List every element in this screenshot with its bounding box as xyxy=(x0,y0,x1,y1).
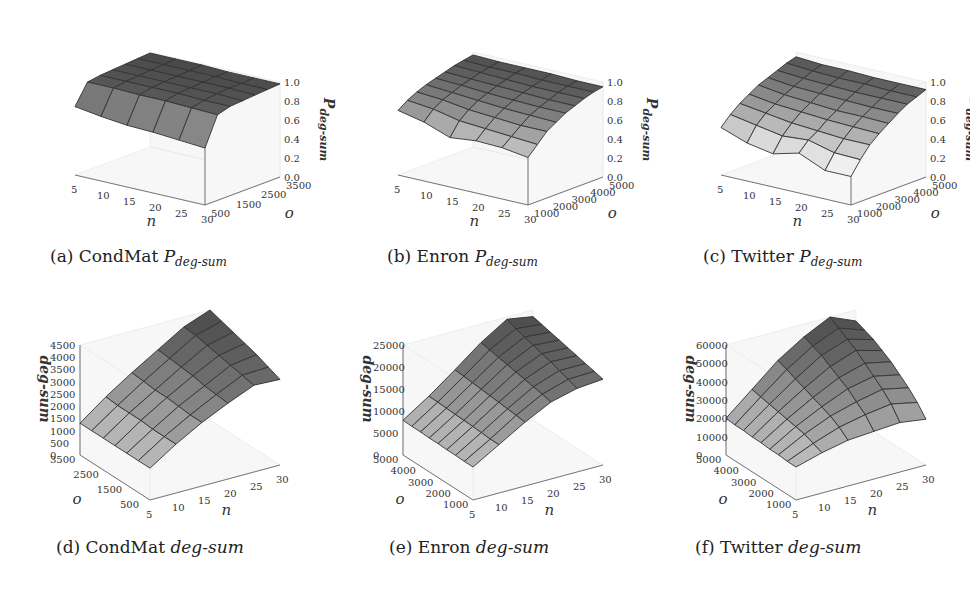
svg-text:20: 20 xyxy=(547,488,560,499)
z-axis-label: deg-sum xyxy=(683,355,699,422)
caption-c-var: P xyxy=(799,246,810,266)
svg-text:5: 5 xyxy=(394,184,400,195)
x-axis-label: n xyxy=(222,501,232,519)
surface-plot-d: 5101520253050015002500350005001000150020… xyxy=(0,320,323,530)
svg-text:20000: 20000 xyxy=(373,362,405,373)
caption-b-var: P xyxy=(475,246,486,266)
svg-text:0.6: 0.6 xyxy=(607,115,623,126)
svg-text:60000: 60000 xyxy=(696,340,728,351)
svg-text:0.0: 0.0 xyxy=(284,172,300,183)
caption-d-var: deg-sum xyxy=(170,537,243,557)
panel-a: 510152025305001500250035000.00.20.40.60.… xyxy=(0,0,323,230)
svg-text:1000: 1000 xyxy=(766,499,791,510)
svg-text:5: 5 xyxy=(146,509,152,520)
x-axis-label: n xyxy=(868,501,878,519)
svg-text:25000: 25000 xyxy=(373,340,405,351)
caption-b-sub: deg-sum xyxy=(486,255,538,269)
y-axis-label: o xyxy=(285,204,294,222)
panel-e: 5101520253010002000300040005000050001000… xyxy=(323,320,646,530)
svg-text:3000: 3000 xyxy=(731,477,756,488)
svg-text:5: 5 xyxy=(792,509,798,520)
svg-text:25: 25 xyxy=(573,481,586,492)
surface-plot-b: 51015202530100020003000400050000.00.20.4… xyxy=(323,0,646,230)
svg-text:1500: 1500 xyxy=(236,199,261,210)
svg-text:0.2: 0.2 xyxy=(607,153,623,164)
svg-text:0.0: 0.0 xyxy=(607,172,623,183)
svg-text:2000: 2000 xyxy=(426,488,451,499)
svg-text:0.2: 0.2 xyxy=(284,153,300,164)
x-axis-label: n xyxy=(470,212,480,230)
caption-b: (b) Enron Pdeg-sum xyxy=(387,246,538,269)
svg-text:10000: 10000 xyxy=(373,406,405,417)
svg-text:10: 10 xyxy=(743,190,756,201)
surface-plot-f: 5101520253010002000300040005000010000200… xyxy=(646,320,969,530)
svg-text:4000: 4000 xyxy=(714,465,739,476)
y-axis-label: o xyxy=(719,490,728,508)
svg-text:0.4: 0.4 xyxy=(284,134,300,145)
caption-a-label: (a) CondMat xyxy=(50,246,164,266)
svg-text:10: 10 xyxy=(818,502,831,513)
surface-plot-e: 5101520253010002000300040005000050001000… xyxy=(323,320,646,530)
caption-f-var: deg-sum xyxy=(788,537,861,557)
svg-text:2500: 2500 xyxy=(261,189,286,200)
svg-text:1.0: 1.0 xyxy=(284,77,300,88)
caption-e-var: deg-sum xyxy=(476,537,549,557)
svg-text:50000: 50000 xyxy=(696,358,728,369)
svg-text:15: 15 xyxy=(844,495,857,506)
caption-c-sub: deg-sum xyxy=(811,255,863,269)
z-axis-label: deg-sum xyxy=(37,355,53,422)
caption-b-label: (b) Enron xyxy=(387,246,475,266)
x-axis-label: n xyxy=(147,212,157,230)
svg-text:0.6: 0.6 xyxy=(284,115,300,126)
svg-text:15: 15 xyxy=(446,196,459,207)
svg-text:1.0: 1.0 xyxy=(607,77,623,88)
svg-text:30: 30 xyxy=(599,474,612,485)
svg-text:25: 25 xyxy=(896,481,909,492)
svg-text:5: 5 xyxy=(71,184,77,195)
svg-text:25: 25 xyxy=(498,208,511,219)
panel-f: 5101520253010002000300040005000010000200… xyxy=(646,320,969,530)
caption-f-label: (f) Twitter xyxy=(695,537,788,557)
svg-text:3000: 3000 xyxy=(408,477,433,488)
svg-text:20: 20 xyxy=(870,488,883,499)
caption-c: (c) Twitter Pdeg-sum xyxy=(703,246,862,269)
svg-text:1000: 1000 xyxy=(443,499,468,510)
svg-text:0.8: 0.8 xyxy=(607,96,623,107)
y-axis-label: o xyxy=(73,490,82,508)
svg-text:0.8: 0.8 xyxy=(930,96,946,107)
svg-text:20000: 20000 xyxy=(696,413,728,424)
svg-text:30000: 30000 xyxy=(696,395,728,406)
svg-text:0: 0 xyxy=(696,450,702,461)
svg-text:1500: 1500 xyxy=(97,484,122,495)
svg-text:500: 500 xyxy=(120,499,139,510)
svg-text:1.0: 1.0 xyxy=(930,77,946,88)
svg-text:0.4: 0.4 xyxy=(607,134,623,145)
svg-text:30: 30 xyxy=(922,474,935,485)
caption-e-label: (e) Enron xyxy=(389,537,476,557)
svg-text:4000: 4000 xyxy=(391,465,416,476)
caption-f: (f) Twitter deg-sum xyxy=(695,537,861,557)
caption-e: (e) Enron deg-sum xyxy=(389,537,549,557)
svg-text:0.4: 0.4 xyxy=(930,134,946,145)
caption-a-var: P xyxy=(164,246,175,266)
svg-text:5000: 5000 xyxy=(373,428,398,439)
svg-text:15: 15 xyxy=(521,495,534,506)
svg-text:0.8: 0.8 xyxy=(284,96,300,107)
panel-b: 51015202530100020003000400050000.00.20.4… xyxy=(323,0,646,230)
svg-text:0.0: 0.0 xyxy=(930,172,946,183)
svg-text:15000: 15000 xyxy=(373,384,405,395)
svg-text:10: 10 xyxy=(172,502,185,513)
y-axis-label: o xyxy=(396,490,405,508)
svg-text:20: 20 xyxy=(224,488,237,499)
svg-text:10: 10 xyxy=(420,190,433,201)
caption-d-label: (d) CondMat xyxy=(56,537,170,557)
svg-text:1000: 1000 xyxy=(50,426,75,437)
svg-text:0: 0 xyxy=(50,450,56,461)
caption-a-sub: deg-sum xyxy=(175,255,227,269)
z-axis-label: deg-sum xyxy=(360,355,376,422)
x-axis-label: n xyxy=(545,501,555,519)
svg-text:15: 15 xyxy=(769,196,782,207)
svg-text:25: 25 xyxy=(821,208,834,219)
svg-text:15: 15 xyxy=(123,196,136,207)
svg-text:5: 5 xyxy=(717,184,723,195)
